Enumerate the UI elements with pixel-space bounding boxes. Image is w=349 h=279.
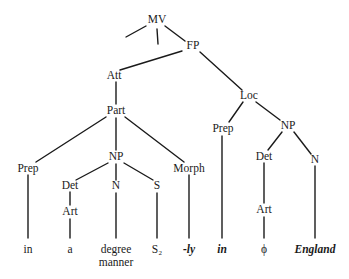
node-art-left: Art [62,206,77,218]
leaf-ly: -ly [183,244,195,256]
leaf-in-right: in [217,244,227,256]
node-det-right: Det [256,151,273,163]
leaf-degree: degree [99,243,133,256]
node-fp: FP [187,40,200,52]
node-np-right: NP [281,120,296,132]
node-mv: MV [148,14,167,26]
leaf-s2: S₂ [152,244,162,256]
node-art-right: Art [256,204,271,216]
leaf-manner: manner [99,256,133,269]
node-prep-left: Prep [17,163,38,175]
node-morph: Morph [173,163,204,175]
leaf-in-left: in [24,244,33,256]
tree-edges [0,0,349,279]
node-att: Att [107,70,122,82]
leaf-phi: ϕ [261,244,267,256]
node-det-left: Det [62,180,79,192]
node-s-mid: S [154,180,160,192]
node-loc: Loc [240,90,258,102]
leaf-degree-manner: degree manner [99,243,133,269]
node-n-mid: N [112,180,120,192]
node-part: Part [107,105,126,117]
node-prep-right: Prep [212,123,233,135]
leaf-england: England [295,244,336,256]
leaf-a: a [67,244,72,256]
node-np-mid: NP [109,151,124,163]
node-n-right: N [311,154,319,166]
